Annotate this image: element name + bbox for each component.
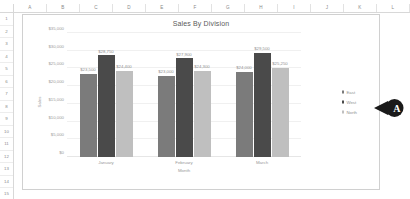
column-header-e[interactable]: E [146, 4, 179, 12]
legend-item-east[interactable]: East [342, 90, 357, 95]
legend-item-west[interactable]: West [342, 100, 357, 105]
bar-value-label: $27,900 [176, 52, 192, 57]
bar-west[interactable]: $28,750 [98, 55, 115, 157]
bar-groups: $23,500$28,750$24,400January$23,000$27,9… [67, 33, 301, 157]
bar-east[interactable]: $24,000 [236, 72, 253, 157]
y-axis-tick-label: $0 [59, 150, 64, 155]
bar-value-label: $24,400 [116, 64, 132, 69]
row-header-1[interactable]: 1 [0, 13, 13, 26]
legend-swatch-icon [342, 111, 345, 114]
row-header-6[interactable]: 6 [0, 76, 13, 89]
row-header-4[interactable]: 4 [0, 51, 13, 64]
bar-value-label: $24,000 [236, 65, 252, 70]
legend-label: West [346, 100, 356, 105]
column-header-k[interactable]: K [344, 4, 377, 12]
bar-slot: $24,000 [236, 33, 253, 157]
column-header-h[interactable]: H [245, 4, 278, 12]
y-axis-tick-label: $15,000 [48, 96, 64, 101]
row-header-14[interactable]: 14 [0, 176, 13, 189]
bar-slot: $28,750 [98, 33, 115, 157]
bar-slot: $27,900 [176, 33, 193, 157]
column-header-l[interactable]: L [377, 4, 410, 12]
bar-north[interactable]: $24,300 [194, 71, 211, 157]
bar-value-label: $23,500 [80, 67, 96, 72]
bar-slot: $23,500 [80, 33, 97, 157]
legend-label: East [346, 90, 355, 95]
x-axis-category-label: February [145, 160, 223, 165]
row-header-11[interactable]: 11 [0, 138, 13, 151]
row-header-2[interactable]: 2 [0, 26, 13, 39]
y-axis-tick-label: $35,000 [48, 26, 64, 31]
x-axis-category-label: January [67, 160, 145, 165]
row-header-7[interactable]: 7 [0, 88, 13, 101]
bar-slot: $24,400 [116, 33, 133, 157]
column-header-row: ABCDEFGHIJKL [0, 4, 410, 13]
plot-area: $35,000$30,000$25,000$20,000$15,000$10,0… [67, 33, 301, 157]
y-axis-tick-label: $20,000 [48, 79, 64, 84]
legend-swatch-icon [342, 91, 345, 94]
column-header-a[interactable]: A [14, 4, 47, 12]
bar-value-label: $29,500 [254, 46, 270, 51]
bar-west[interactable]: $27,900 [176, 58, 193, 157]
bar-north[interactable]: $25,250 [272, 68, 289, 157]
bar-group: $24,000$29,500$25,250March [223, 33, 301, 157]
select-all-corner[interactable] [0, 4, 14, 12]
bar-slot: $23,000 [158, 33, 175, 157]
bar-value-label: $25,250 [272, 61, 288, 66]
bar-value-label: $23,000 [158, 69, 174, 74]
column-header-d[interactable]: D [113, 4, 146, 12]
x-axis-category-label: March [223, 160, 301, 165]
row-header-13[interactable]: 13 [0, 163, 13, 176]
row-header-9[interactable]: 9 [0, 113, 13, 126]
bar-group: $23,500$28,750$24,400January [67, 33, 145, 157]
row-header-3[interactable]: 3 [0, 38, 13, 51]
bar-slot: $25,250 [272, 33, 289, 157]
row-header-12[interactable]: 12 [0, 151, 13, 164]
y-axis-tick-label: $25,000 [48, 61, 64, 66]
row-header-column: 123456789101112131415 [0, 13, 14, 199]
row-header-10[interactable]: 10 [0, 126, 13, 139]
chart-legend[interactable]: EastWestNorth [342, 90, 357, 115]
x-axis-title: Month [67, 168, 301, 173]
legend-swatch-icon [342, 101, 345, 104]
bar-slot: $29,500 [254, 33, 271, 157]
row-header-8[interactable]: 8 [0, 101, 13, 114]
column-header-c[interactable]: C [80, 4, 113, 12]
bar-west[interactable]: $29,500 [254, 53, 271, 158]
column-header-f[interactable]: F [179, 4, 212, 12]
y-axis-title: Sales [37, 97, 42, 108]
bar-slot: $24,300 [194, 33, 211, 157]
column-header-b[interactable]: B [47, 4, 80, 12]
chart-object[interactable]: Sales By Division Sales $35,000$30,000$2… [22, 14, 380, 190]
bar-value-label: $28,750 [98, 49, 114, 54]
column-header-j[interactable]: J [311, 4, 344, 12]
bar-east[interactable]: $23,000 [158, 76, 175, 157]
legend-label: North [346, 110, 357, 115]
bar-east[interactable]: $23,500 [80, 74, 97, 157]
spreadsheet-grid: ABCDEFGHIJKL 123456789101112131415 Sales… [0, 0, 410, 199]
row-header-5[interactable]: 5 [0, 63, 13, 76]
bar-north[interactable]: $24,400 [116, 71, 133, 157]
y-axis-tick-label: $30,000 [48, 43, 64, 48]
y-axis-tick-label: $10,000 [48, 114, 64, 119]
legend-item-north[interactable]: North [342, 110, 357, 115]
y-axis-tick-label: $5,000 [51, 132, 64, 137]
bar-value-label: $24,300 [194, 64, 210, 69]
column-header-i[interactable]: I [278, 4, 311, 12]
row-header-15[interactable]: 15 [0, 188, 13, 199]
chart-title: Sales By Division [23, 20, 379, 27]
bar-group: $23,000$27,900$24,300February [145, 33, 223, 157]
column-header-g[interactable]: G [212, 4, 245, 12]
